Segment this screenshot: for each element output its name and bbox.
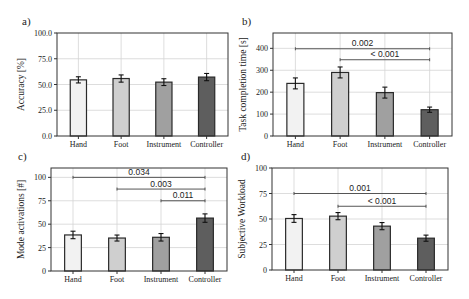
x-tick-label: Foot [331,274,346,283]
x-axis: HandFootInstrumentController [285,270,442,283]
y-axis-label: Task completion time [s] [238,37,248,132]
x-tick-label: Controller [413,140,446,149]
bar-foot [109,235,126,271]
y-tick-label: 25 [38,244,46,253]
p-value-label: < 0.001 [368,196,397,206]
y-tick-label: 25 [259,241,267,250]
x-tick-label: Controller [410,274,443,283]
y-tick-label: 50 [259,215,267,224]
p-value-label: < 0.001 [371,49,400,59]
x-tick-label: Foot [110,275,125,284]
bar-foot [113,75,129,136]
x-tick-label: Foot [333,140,348,149]
y-tick-label: 100 [34,173,46,182]
x-tick-label: Instrument [144,275,179,284]
x-tick-label: Foot [114,140,129,149]
y-tick-label: 0.0 [42,132,52,141]
y-tick-label: 300 [256,66,268,75]
y-tick-label: 25.0 [38,106,52,115]
y-tick-label: 50.0 [38,81,52,90]
x-tick-label: Hand [70,140,87,149]
x-tick-label: Hand [287,140,304,149]
y-tick-label: 100 [255,164,267,173]
bar-hand [70,77,86,136]
y-tick-label: 200 [256,88,268,97]
bar-hand [286,215,303,270]
x-axis: HandFootInstrumentController [70,136,224,149]
y-axis: 0255075100Subjective Workload [237,164,272,275]
bar-controller [197,214,214,271]
panel-a: 0.025.050.075.0100.0Accuracy [%]HandFoot… [16,15,228,149]
x-tick-label: Hand [64,275,81,284]
x-tick-label: Instrument [365,274,400,283]
y-tick-label: 75 [259,190,267,199]
panel-label: d) [241,150,251,163]
y-tick-label: 50 [38,220,46,229]
y-axis: 0100200300400Task completion time [s] [238,37,273,141]
y-tick-label: 0 [263,266,267,275]
figure: 0.025.050.075.0100.0Accuracy [%]HandFoot… [0,0,469,299]
y-axis-label: Subjective Workload [237,179,247,259]
y-tick-label: 100 [256,110,268,119]
p-value-label: 0.003 [150,179,172,189]
bar-controller [418,235,435,270]
bar-instrument [153,234,170,271]
panel-label: b) [242,15,252,28]
p-value-label: 0.011 [173,190,194,200]
x-tick-label: Controller [190,140,223,149]
x-axis: HandFootInstrumentController [287,136,447,149]
x-tick-label: Instrument [147,140,182,149]
y-tick-label: 75.0 [38,55,52,64]
panel-d: 0.001< 0.0010255075100Subjective Workloa… [237,150,448,283]
x-axis: HandFootInstrumentController [64,271,221,284]
y-axis: 0255075100Mode activations [#] [16,173,51,276]
bar-instrument [156,79,172,136]
y-axis: 0.025.050.075.0100.0Accuracy [%] [16,29,57,141]
panel-b: 0.002< 0.0010100200300400Task completion… [238,15,452,149]
x-tick-label: Controller [189,275,222,284]
y-tick-label: 75 [38,197,46,206]
p-value-label: 0.001 [349,183,371,193]
bar-hand [287,78,304,136]
y-axis-label: Mode activations [#] [16,180,26,259]
bar-instrument [374,223,391,270]
panel-c: 0.0340.0030.0110255075100Mode activation… [16,150,227,284]
bar-controller [199,73,215,136]
x-tick-label: Hand [285,274,302,283]
p-value-label: 0.002 [352,38,374,48]
y-tick-label: 400 [256,44,268,53]
bar-foot [332,67,349,136]
y-axis-label: Accuracy [%] [16,58,26,111]
panel-label: a) [22,15,31,28]
bar-controller [421,107,438,136]
panel-label: c) [18,150,27,163]
x-tick-label: Instrument [368,140,403,149]
y-tick-label: 0 [264,132,268,141]
bar-foot [330,213,347,270]
y-tick-label: 0 [42,267,46,276]
bar-instrument [376,87,393,136]
y-tick-label: 100.0 [34,29,52,38]
bar-hand [65,231,82,271]
